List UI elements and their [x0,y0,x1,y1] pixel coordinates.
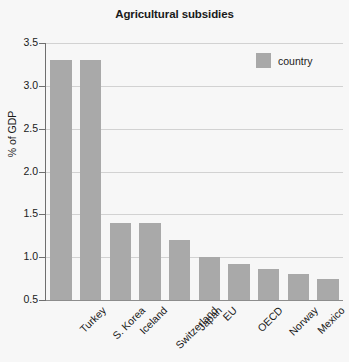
chart-legend: country [256,53,312,68]
x-tick-label: EU [221,304,240,323]
bar [288,274,309,300]
y-tick-label: 3.0 [0,79,38,91]
y-tick-mark [39,214,45,215]
plot-area [46,43,343,300]
gridline [46,43,343,44]
y-tick-mark [39,86,45,87]
y-axis-title: % of GDP [6,104,18,164]
y-tick-label: 1.5 [0,207,38,219]
legend-label-country: country [278,55,312,67]
bar [80,60,101,300]
y-tick-mark [39,300,45,301]
y-tick-mark [39,172,45,173]
bar [199,257,220,300]
y-tick-label: 0.5 [0,293,38,305]
bar [139,223,160,300]
x-tick-label: Mexico [315,304,347,336]
chart-title: Agricultural subsidies [0,8,349,20]
y-tick-label: 3.5 [0,36,38,48]
agricultural-subsidies-bar-chart: Agricultural subsidies % of GDP country … [0,0,349,362]
y-tick-label: 1.0 [0,250,38,262]
bar [50,60,71,300]
bar [169,240,190,300]
bar [110,223,131,300]
x-tick-label: OECD [255,304,285,334]
y-tick-mark [39,43,45,44]
y-tick-mark [39,129,45,130]
y-tick-label: 2.5 [0,122,38,134]
legend-swatch-country [256,53,271,68]
y-tick-label: 2.0 [0,165,38,177]
y-tick-mark [39,257,45,258]
x-tick-label: Norway [286,304,320,338]
bar [228,264,249,300]
bar [258,269,279,300]
gridline [46,300,343,301]
bar [317,279,338,300]
x-tick-label: Japan [195,304,224,333]
x-tick-label: Turkey [77,304,108,335]
